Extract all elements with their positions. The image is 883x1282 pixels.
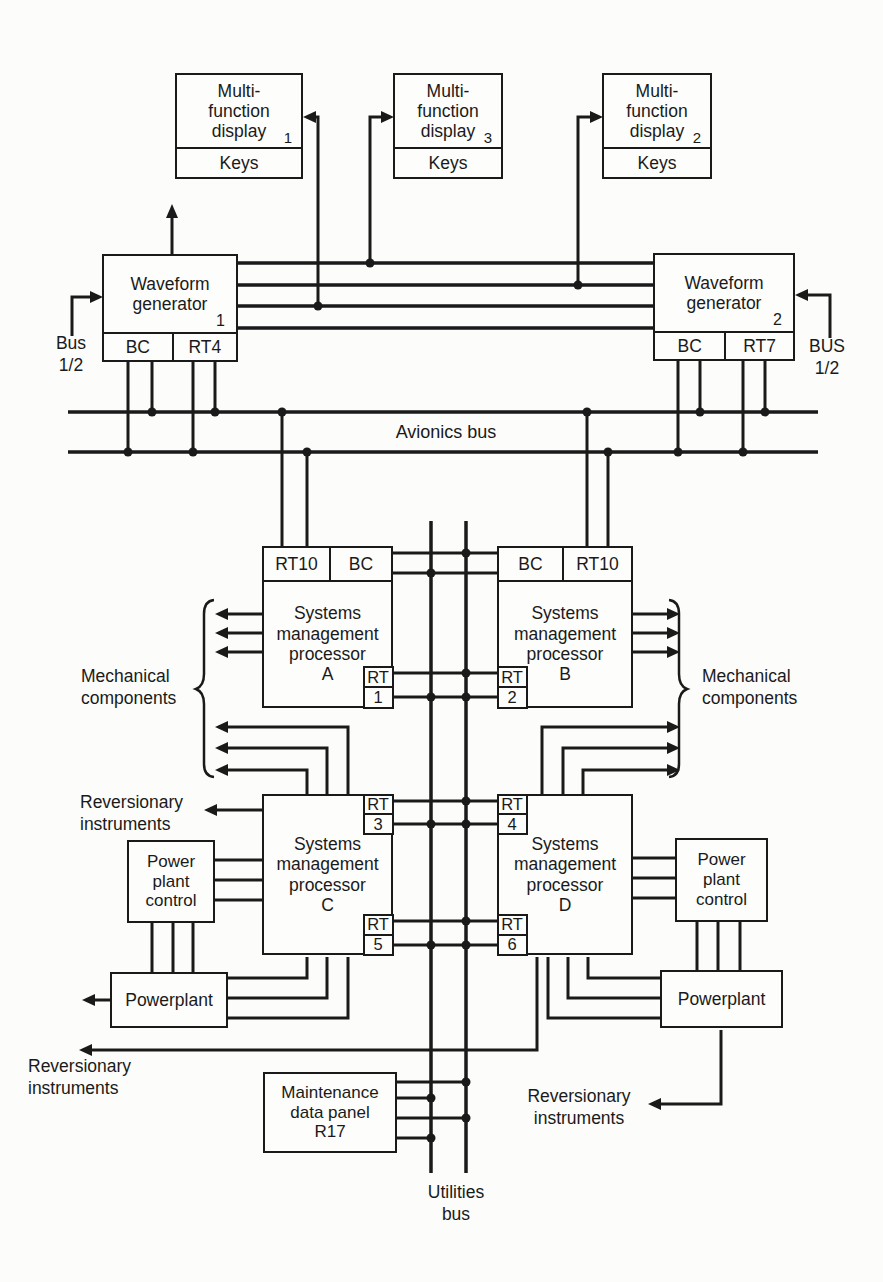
arrow-into-display1-icon [303,111,316,123]
multi-function-display-1-box: Multi- function display 1 Keys [175,73,303,179]
mfd-3-line3: display [421,121,475,141]
smp-c-line2: management [276,854,378,874]
mfd-1-line1: Multi- [218,81,261,101]
smp-a-line3: processor [289,644,366,664]
smp-c-box: Systems management processor C RT 3 RT 5 [262,794,393,955]
powerplant-right-box: Powerplant [660,970,783,1028]
maintenance-panel-title: Maintenance data panel R17 [265,1074,395,1151]
smp-c-rt3-port: RT 3 [363,794,394,835]
smp-b-rt10-port: RT10 [564,548,631,580]
smp-b-letter: B [559,664,571,684]
smp-a-line1: Systems [294,603,361,623]
mfd-1-number: 1 [284,129,292,146]
smp-d-line3: processor [527,875,604,895]
processor-link-rows [392,553,497,945]
wg-1-ports: BC RT4 [104,332,236,360]
reversionary-instruments-lower-right-label: Reversionary instruments [517,1086,641,1129]
smp-c-line3: processor [289,875,366,895]
smp-a-box: RT10 BC Systems management processor A R… [262,546,393,708]
powerplant-right-title: Powerplant [662,972,781,1026]
smp-a-rt10-port: RT10 [264,548,331,580]
smp-d-rt4-port: RT 4 [497,794,528,835]
smp-b-top-ports: BC RT10 [499,548,631,582]
wg-2-ports: BC RT7 [655,331,793,359]
smp-d-box: Systems management processor D RT 4 RT 6 [497,794,633,955]
smp-c-line1: Systems [294,834,361,854]
bus-12-right-label: BUS 1/2 [801,336,853,379]
wg-1-bc-port: BC [104,334,174,360]
arrow-reversionary-lower-right-icon [648,1098,661,1110]
mfd-2-line3: display [630,121,684,141]
mfd-3-keys-cell: Keys [395,147,501,177]
utilities-bus-lines [431,521,466,1173]
avionics-architecture-diagram: Multi- function display 1 Keys Multi- fu… [0,0,883,1282]
mfd-3-line1: Multi- [427,81,470,101]
mfd-3-line2: function [417,101,478,121]
arrow-into-generator2-icon [795,289,808,301]
smp-a-letter: A [322,664,334,684]
wg-2-line2: generator [687,293,762,313]
avionics-bus-label: Avionics bus [336,421,556,443]
mfd-3-title: Multi- function display 3 [395,75,501,147]
smp-c-rt5-port: RT 5 [363,914,394,956]
smp-a-top-ports: RT10 BC [264,548,391,582]
utilities-bus-label: Utilities bus [406,1182,506,1225]
mfd-1-keys-cell: Keys [177,147,301,177]
smp-d-line2: management [514,854,616,874]
mfd-2-line2: function [626,101,687,121]
ppc-right-title: Power plant control [677,840,766,920]
smp-d-rt6-port: RT 6 [497,914,528,956]
brace-left-icon [196,600,214,777]
multi-function-display-2-box: Multi- function display 2 Keys [602,73,712,179]
maintenance-data-panel-box: Maintenance data panel R17 [263,1072,397,1153]
wg-1-title: Waveform generator 1 [104,256,236,332]
arrow-reversionary-lower-left-icon [79,1044,92,1056]
wg-1-line2: generator [133,294,208,314]
smp-d-letter: D [559,895,572,915]
powerplant-left-title: Powerplant [112,974,226,1026]
waveform-generator-1-box: Waveform generator 1 BC RT4 [102,254,238,362]
waveform-generator-2-box: Waveform generator 2 BC RT7 [653,253,795,361]
mfd-2-title: Multi- function display 2 [604,75,710,147]
mfd-2-line1: Multi- [636,81,679,101]
power-plant-control-right-box: Power plant control [675,838,768,922]
smp-a-bc-port: BC [331,548,391,580]
mfd-1-title: Multi- function display 1 [177,75,301,147]
smp-a-line2: management [276,624,378,644]
wg-2-line1: Waveform [684,273,763,293]
smp-b-rt2-port: RT 2 [497,666,528,709]
mfd-1-line3: display [212,121,266,141]
generator-trunk-lines [238,263,653,328]
wg-2-number: 2 [773,311,782,330]
smp-b-line3: processor [527,644,604,664]
wg-2-title: Waveform generator 2 [655,255,793,331]
reversionary-instruments-lower-left-label: Reversionary instruments [28,1056,131,1099]
mechanical-components-left-label: Mechanical components [81,666,176,709]
wg-2-rt7-port: RT7 [726,333,793,359]
wiring-layer [0,0,883,1282]
bus-12-left-label: Bus 1/2 [48,333,94,376]
wg-2-bc-port: BC [655,333,726,359]
smp-b-box: BC RT10 Systems management processor B R… [497,546,633,708]
ppc-left-title: Power plant control [129,842,213,921]
smp-b-bc-port: BC [499,548,564,580]
power-plant-control-left-box: Power plant control [127,840,215,923]
mechanical-components-right-label: Mechanical components [702,666,797,709]
smp-b-line2: management [514,624,616,644]
smp-d-line1: Systems [531,834,598,854]
mfd-2-number: 2 [693,129,701,146]
wg-1-line1: Waveform [130,274,209,294]
wg-1-number: 1 [216,312,225,331]
mfd-3-number: 3 [484,129,492,146]
smp-b-line1: Systems [531,603,598,623]
smp-c-letter: C [321,895,334,915]
smp-a-rt1-port: RT 1 [363,666,394,709]
arrow-reversionary-upper-left-icon [204,804,217,816]
wg-1-rt4-port: RT4 [174,334,236,360]
mfd-1-line2: function [208,101,269,121]
multi-function-display-3-box: Multi- function display 3 Keys [393,73,503,179]
power-plant-lines [152,858,740,1018]
mfd-2-keys-cell: Keys [604,147,710,177]
up-arrow-icon [166,204,178,218]
powerplant-left-box: Powerplant [110,972,228,1028]
